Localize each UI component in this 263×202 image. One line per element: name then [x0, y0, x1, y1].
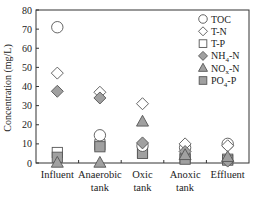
legend-icon-t-n [199, 27, 208, 36]
legend-icon-nh4-n [199, 51, 208, 60]
y-tick-label: 10 [22, 138, 32, 149]
legend-icon-toc [199, 15, 208, 24]
y-axis-ticks: 01020304050607080 [22, 5, 39, 169]
legend-icon-po4-p [199, 77, 207, 85]
legend-icon-nox-n [199, 63, 208, 71]
x-tick-label: tank [133, 182, 152, 193]
x-axis-ticks: InfluentAnaerobictankOxictankAnoxictankE… [41, 160, 245, 193]
legend-label: T-N [211, 26, 227, 37]
marker-nox-n [94, 156, 106, 167]
marker-t-n [51, 67, 63, 79]
x-tick-label: Influent [41, 169, 74, 180]
concentration-chart: 01020304050607080 InfluentAnaerobictankO… [0, 0, 263, 202]
legend: TOCT-NT-PNH4-NNOx-NPO4-P [199, 14, 240, 89]
marker-nox-n [137, 115, 149, 126]
marker-nh4-n [51, 85, 63, 97]
y-tick-label: 80 [22, 5, 32, 16]
x-tick-label: Effluent [211, 169, 245, 180]
legend-icon-t-p [199, 40, 207, 48]
y-axis-label: Concentration (mg/L) [2, 44, 14, 131]
marker-po4-p [95, 142, 105, 152]
x-tick-label: Oxic [132, 169, 153, 180]
x-tick-label: tank [91, 182, 110, 193]
legend-label: PO4-P [211, 75, 237, 89]
legend-label: T-P [211, 38, 226, 49]
y-tick-label: 60 [22, 43, 32, 54]
y-tick-label: 40 [22, 81, 32, 92]
y-tick-label: 0 [27, 158, 32, 169]
marker-toc [52, 22, 63, 33]
x-tick-label: Anoxic [170, 169, 201, 180]
y-tick-label: 20 [22, 119, 32, 130]
y-tick-label: 70 [22, 24, 32, 35]
y-tick-label: 30 [22, 100, 32, 111]
legend-label: TOC [211, 14, 231, 25]
y-tick-label: 50 [22, 62, 32, 73]
x-tick-label: tank [176, 182, 195, 193]
marker-t-n [137, 98, 149, 110]
x-tick-label: Anaerobic [78, 169, 122, 180]
marker-toc [94, 130, 105, 141]
